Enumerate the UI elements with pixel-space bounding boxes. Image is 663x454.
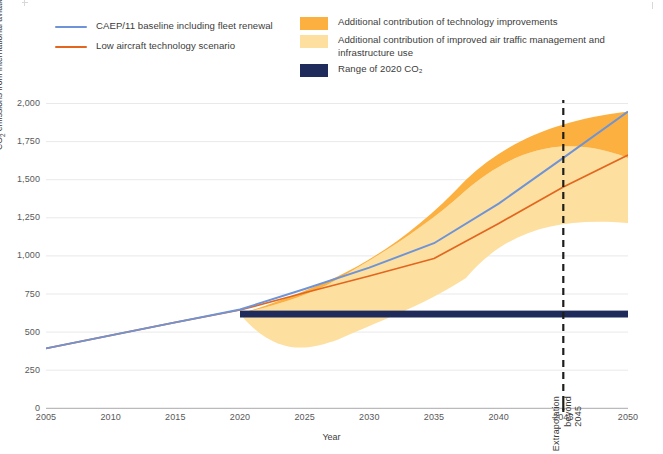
legend-column-lines: CAEP/11 baseline including fleet renewal… xyxy=(55,20,305,59)
y-tick-1000: 1,000 xyxy=(0,250,40,260)
legend-column-areas: Additional contribution of technology im… xyxy=(300,16,652,81)
legend-swatch-box-navy xyxy=(300,64,328,77)
legend-item-low-aircraft-technology: Low aircraft technology scenario xyxy=(55,40,305,53)
crop-mark-top-right xyxy=(652,2,653,9)
plot-area xyxy=(46,100,628,410)
chart-svg xyxy=(46,100,628,412)
x-tick-2040: 2040 xyxy=(488,412,508,422)
crop-mark-top-left-h xyxy=(22,2,28,3)
y-axis-tick-labels: 2,000 1,750 1,500 1,250 1,000 750 500 25… xyxy=(0,100,44,410)
x-tick-2030: 2030 xyxy=(359,412,379,422)
legend-label-range-2020-co2: Range of 2020 CO₂ xyxy=(338,63,423,76)
y-tick-500: 500 xyxy=(0,326,40,336)
legend-item-technology-improvements: Additional contribution of technology im… xyxy=(300,16,652,30)
legend-swatch-line-orange xyxy=(55,46,87,48)
extrapolation-label-line2: beyond 2045 xyxy=(563,396,583,427)
x-axis-tick-labels: 2005 2010 2015 2020 2025 2030 2035 2040 … xyxy=(46,412,628,428)
y-tick-1750: 1,750 xyxy=(0,136,40,146)
x-tick-2005: 2005 xyxy=(36,412,56,422)
legend-label-atm-infrastructure: Additional contribution of improved air … xyxy=(338,34,652,59)
y-tick-1500: 1,500 xyxy=(0,174,40,184)
x-tick-2015: 2015 xyxy=(165,412,185,422)
x-tick-2025: 2025 xyxy=(294,412,314,422)
legend-swatch-box-dark-orange xyxy=(300,17,328,30)
legend-item-atm-infrastructure: Additional contribution of improved air … xyxy=(300,34,652,59)
chart-legend: CAEP/11 baseline including fleet renewal… xyxy=(0,12,663,84)
y-tick-750: 750 xyxy=(0,288,40,298)
crop-mark-top-left xyxy=(24,0,25,6)
x-tick-2035: 2035 xyxy=(424,412,444,422)
range-2020-co2-band xyxy=(240,311,628,318)
y-tick-0: 0 xyxy=(0,402,40,412)
legend-label-technology-improvements: Additional contribution of technology im… xyxy=(338,16,558,29)
chart-page: CAEP/11 baseline including fleet renewal… xyxy=(0,0,663,454)
legend-item-caep11-baseline: CAEP/11 baseline including fleet renewal xyxy=(55,20,305,33)
y-tick-250: 250 xyxy=(0,364,40,374)
x-tick-2050: 2050 xyxy=(618,412,638,422)
legend-item-range-2020-co2: Range of 2020 CO₂ xyxy=(300,63,652,77)
y-tick-1250: 1,250 xyxy=(0,212,40,222)
x-tick-2010: 2010 xyxy=(100,412,120,422)
y-tick-2000: 2,000 xyxy=(0,98,40,108)
legend-label-low-aircraft-technology: Low aircraft technology scenario xyxy=(96,40,235,53)
legend-label-caep11-baseline: CAEP/11 baseline including fleet renewal xyxy=(96,20,273,33)
legend-swatch-box-light-orange xyxy=(300,35,328,48)
legend-swatch-line-blue xyxy=(55,26,87,28)
x-axis-title: Year xyxy=(0,432,663,442)
x-tick-2020: 2020 xyxy=(230,412,250,422)
extrapolation-label-line1: Extrapolation xyxy=(551,396,561,451)
